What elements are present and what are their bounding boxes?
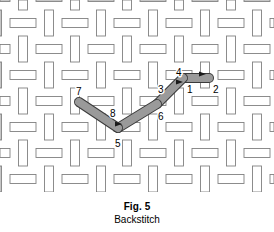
fabric-strip-vertical (227, 140, 236, 166)
fabric-strip-horizontal (140, 45, 166, 54)
fabric-strip-horizontal (0, 45, 10, 54)
fabric-strip-vertical (175, 140, 184, 166)
stitch-label-1: 1 (187, 84, 193, 95)
stitch-label-3: 3 (158, 84, 164, 95)
fabric-strip-horizontal (62, 123, 88, 132)
fabric-strip-horizontal (140, 0, 166, 2)
figure-number: Fig. 5 (0, 200, 274, 213)
fabric-strip-vertical (19, 88, 28, 114)
fabric-strip-horizontal (0, 97, 10, 106)
fabric-strip-vertical (71, 36, 80, 62)
fabric-strip-vertical (71, 140, 80, 166)
fabric-strip-horizontal (244, 0, 270, 2)
fabric-strip-horizontal (0, 0, 10, 2)
figure-caption: Fig. 5 Backstitch (0, 200, 274, 226)
fabric-strip-horizontal (62, 19, 88, 28)
fabric-strip-vertical (123, 36, 132, 62)
fabric-strip-horizontal (62, 71, 88, 80)
fabric-strip-vertical (45, 166, 54, 192)
stitch-label-8: 8 (110, 108, 116, 119)
fabric-strip-horizontal (140, 149, 166, 158)
fabric-strip-vertical (253, 114, 262, 140)
fabric-strip-horizontal (166, 19, 192, 28)
fabric-strip-horizontal (218, 19, 244, 28)
figure-backstitch: 1122334455667788 Fig. 5 Backstitch (0, 0, 274, 232)
stitch-label-5: 5 (115, 138, 121, 149)
fabric-strip-vertical (253, 10, 262, 36)
fabric-strip-horizontal (10, 19, 36, 28)
fabric-strip-horizontal (218, 71, 244, 80)
fabric-strip-horizontal (192, 97, 218, 106)
figure-title: Backstitch (0, 213, 274, 226)
fabric-strip-horizontal (88, 149, 114, 158)
fabric-strip-vertical (97, 62, 106, 88)
fabric-weave-layer (0, 0, 274, 192)
stitch-label-7: 7 (76, 86, 82, 97)
fabric-strip-vertical (149, 114, 158, 140)
fabric-strip-vertical (253, 166, 262, 192)
fabric-strip-horizontal (36, 45, 62, 54)
fabric-strip-horizontal (192, 149, 218, 158)
fabric-strip-vertical (45, 10, 54, 36)
fabric-strip-vertical (227, 88, 236, 114)
fabric-strip-horizontal (10, 71, 36, 80)
fabric-strip-vertical (123, 0, 132, 10)
fabric-strip-horizontal (244, 45, 270, 54)
fabric-strip-horizontal (36, 149, 62, 158)
fabric-strip-vertical (201, 114, 210, 140)
fabric-strip-vertical (19, 36, 28, 62)
fabric-strip-horizontal (0, 149, 10, 158)
fabric-strip-vertical (45, 114, 54, 140)
fabric-strip-vertical (71, 0, 80, 10)
fabric-strip-horizontal (244, 149, 270, 158)
fabric-strip-horizontal (88, 97, 114, 106)
fabric-strip-horizontal (88, 0, 114, 2)
stitch-label-2: 2 (213, 84, 219, 95)
fabric-strip-horizontal (114, 71, 140, 80)
fabric-strip-vertical (227, 0, 236, 10)
fabric-strip-vertical (0, 114, 2, 140)
fabric-strip-vertical (149, 10, 158, 36)
fabric-strip-vertical (175, 0, 184, 10)
fabric-strip-horizontal (10, 123, 36, 132)
fabric-strip-vertical (253, 62, 262, 88)
fabric-strip-horizontal (270, 175, 274, 184)
fabric-strip-vertical (97, 10, 106, 36)
fabric-strip-vertical (0, 62, 2, 88)
stitch-label-6: 6 (158, 111, 164, 122)
fabric-strip-vertical (97, 166, 106, 192)
fabric-strip-horizontal (192, 0, 218, 2)
fabric-strip-vertical (175, 36, 184, 62)
fabric-strip-horizontal (166, 123, 192, 132)
fabric-strip-vertical (45, 62, 54, 88)
fabric-strip-horizontal (192, 45, 218, 54)
fabric-strip-horizontal (114, 175, 140, 184)
fabric-strip-horizontal (270, 19, 274, 28)
fabric-strip-horizontal (62, 175, 88, 184)
fabric-strip-vertical (201, 166, 210, 192)
fabric-strip-horizontal (218, 175, 244, 184)
stitch-label-4: 4 (176, 67, 182, 78)
fabric-strip-horizontal (166, 175, 192, 184)
fabric-strip-horizontal (36, 0, 62, 2)
fabric-strip-horizontal (36, 97, 62, 106)
fabric-strip-horizontal (88, 45, 114, 54)
fabric-strip-vertical (123, 140, 132, 166)
fabric-strip-horizontal (270, 123, 274, 132)
fabric-strip-horizontal (270, 71, 274, 80)
fabric-strip-vertical (0, 166, 2, 192)
fabric-strip-horizontal (10, 175, 36, 184)
fabric-strip-vertical (227, 36, 236, 62)
weave-diagram: 1122334455667788 (0, 0, 274, 192)
fabric-strip-horizontal (244, 97, 270, 106)
fabric-strip-vertical (0, 10, 2, 36)
fabric-strip-vertical (19, 0, 28, 10)
fabric-strip-vertical (19, 140, 28, 166)
fabric-strip-horizontal (218, 123, 244, 132)
fabric-strip-vertical (149, 62, 158, 88)
fabric-strip-horizontal (114, 19, 140, 28)
fabric-strip-vertical (149, 166, 158, 192)
fabric-strip-vertical (201, 10, 210, 36)
fabric-strip-vertical (123, 88, 132, 114)
